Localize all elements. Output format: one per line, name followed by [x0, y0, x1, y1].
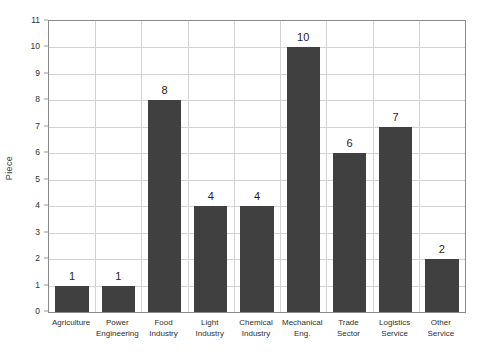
y-axis-tick-labels: 01234567891011	[22, 20, 44, 313]
x-axis-tick-label: Logistics Service	[379, 318, 410, 339]
x-axis-tick-label: Other Service	[428, 318, 455, 339]
x-axis-tick-label: Agriculture	[52, 318, 90, 329]
bar	[240, 206, 273, 312]
x-axis-tick-label: Food Industry	[149, 318, 177, 339]
gridline-horizontal	[49, 47, 465, 48]
bar-value-label: 6	[346, 137, 352, 149]
bar-value-label: 10	[297, 31, 309, 43]
bar-value-label: 4	[208, 190, 214, 202]
bar	[194, 206, 227, 312]
y-axis-tick-label: 6	[35, 147, 40, 157]
bar-value-label: 7	[393, 111, 399, 123]
gridline-horizontal	[49, 100, 465, 101]
bar	[379, 127, 412, 312]
gridline-vertical	[188, 21, 189, 312]
gridline-vertical	[326, 21, 327, 312]
y-axis-tick-label: 10	[31, 41, 40, 51]
y-axis-tick-label: 1	[35, 280, 40, 290]
gridline-vertical	[95, 21, 96, 312]
x-axis-tick-label: Trade Sector	[337, 318, 360, 339]
y-axis-title-text: Piece	[4, 156, 14, 181]
y-axis-tick-label: 0	[35, 306, 40, 316]
bar	[148, 100, 181, 312]
x-axis-tick-label: Mechanical Eng.	[282, 318, 322, 339]
gridline-horizontal	[49, 74, 465, 75]
y-axis-tick-label: 3	[35, 227, 40, 237]
x-axis-tick-label: Power Engineering	[96, 318, 139, 339]
y-axis-tick-label: 2	[35, 253, 40, 263]
bar-value-label: 1	[115, 270, 121, 282]
bar-chart: Piece 01234567891011 1184410672 Agricult…	[0, 0, 486, 359]
plot-area: 1184410672	[48, 20, 466, 313]
y-axis-tick-label: 11	[31, 15, 40, 25]
bar-value-label: 4	[254, 190, 260, 202]
bar-value-label: 8	[161, 84, 167, 96]
bar	[425, 259, 458, 312]
x-axis-tick-label: Chemical Industry	[239, 318, 272, 339]
x-axis-tick-label: Light Industry	[196, 318, 224, 339]
bar	[333, 153, 366, 312]
bar	[55, 286, 88, 312]
y-axis-tick-label: 7	[35, 121, 40, 131]
bar-value-label: 2	[439, 243, 445, 255]
bar	[287, 47, 320, 312]
gridline-vertical	[419, 21, 420, 312]
y-axis-tick-label: 4	[35, 200, 40, 210]
y-axis-tick-label: 8	[35, 94, 40, 104]
y-axis-tick-label: 9	[35, 68, 40, 78]
y-axis-tick-label: 5	[35, 174, 40, 184]
x-axis-tick-labels: AgriculturePower EngineeringFood Industr…	[48, 318, 466, 356]
gridline-vertical	[234, 21, 235, 312]
gridline-vertical	[141, 21, 142, 312]
bar	[102, 286, 135, 312]
gridline-vertical	[280, 21, 281, 312]
y-axis-title: Piece	[0, 128, 18, 208]
bar-value-label: 1	[69, 270, 75, 282]
gridline-vertical	[373, 21, 374, 312]
